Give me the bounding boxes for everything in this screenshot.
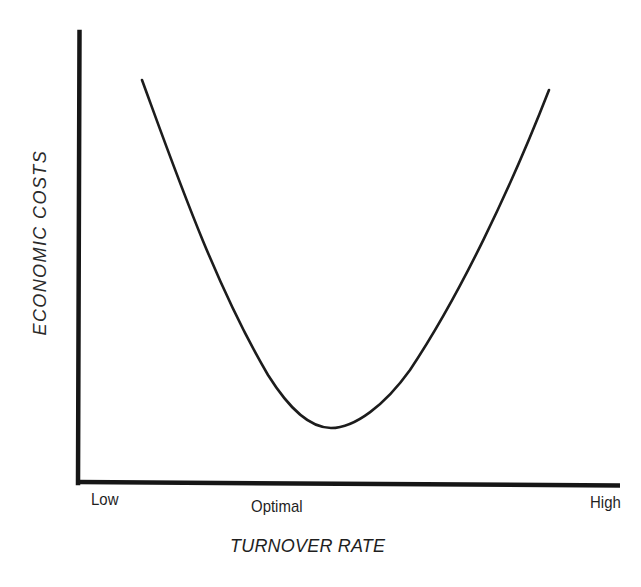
x-tick-low: Low	[91, 490, 118, 510]
y-axis-line	[78, 32, 80, 483]
x-tick-high: High	[590, 493, 621, 513]
x-axis-line	[78, 482, 620, 486]
x-tick-optimal: Optimal	[251, 497, 303, 517]
y-axis-title: ECONOMIC COSTS	[30, 166, 51, 336]
x-axis-title: TURNOVER RATE	[230, 536, 385, 557]
cost-curve	[142, 80, 549, 428]
